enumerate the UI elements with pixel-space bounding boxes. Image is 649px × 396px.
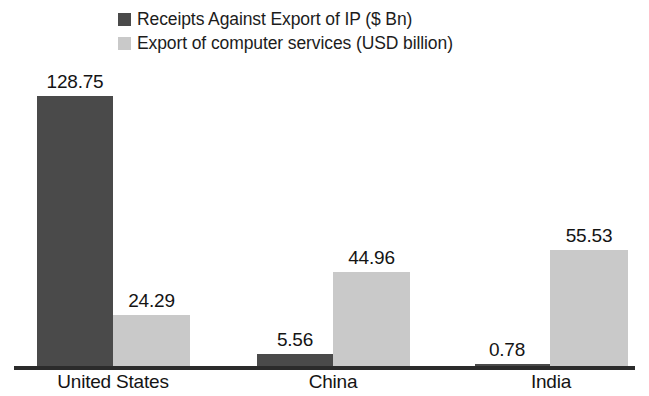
x-axis-label-united-states: United States	[25, 371, 201, 393]
bar-united-states-series-2[interactable]	[113, 315, 190, 366]
x-axis-label-india: India	[463, 371, 639, 393]
bar-value-india-series-1: 0.78	[469, 339, 545, 361]
bar-value-india-series-2: 55.53	[550, 225, 628, 247]
bar-value-united-states-series-2: 24.29	[113, 290, 190, 312]
x-axis-line	[14, 366, 635, 370]
bar-chart: Receipts Against Export of IP ($ Bn) Exp…	[0, 0, 649, 396]
x-axis-label-china: China	[245, 371, 421, 393]
bar-india-series-2[interactable]	[550, 250, 628, 366]
bar-united-states-series-1[interactable]	[37, 96, 113, 366]
bar-value-united-states-series-1: 128.75	[37, 71, 113, 93]
bar-value-china-series-1: 5.56	[257, 329, 333, 351]
bar-value-china-series-2: 44.96	[333, 247, 410, 269]
bar-china-series-2[interactable]	[333, 272, 410, 366]
plot-area: 128.75 24.29 5.56 44.96 0.78 55.53 Unite…	[0, 0, 649, 396]
bar-china-series-1[interactable]	[257, 354, 333, 366]
